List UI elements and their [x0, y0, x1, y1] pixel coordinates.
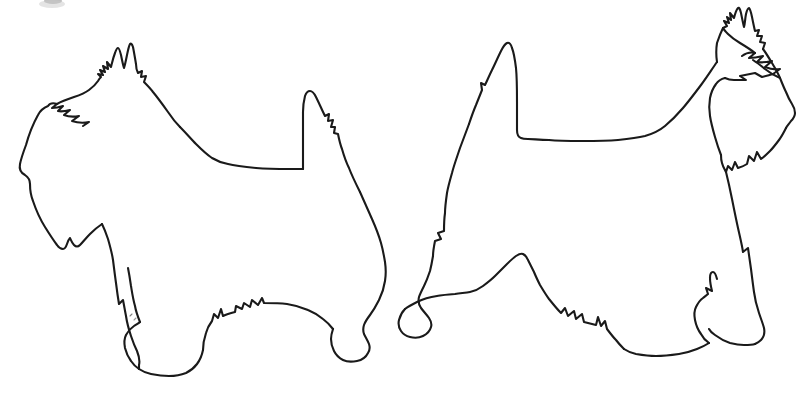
top-edge-smudge [39, 0, 65, 8]
image-canvas: Two Scottish Terriers line drawing [0, 0, 810, 403]
two-scottish-terriers-drawing [0, 0, 810, 403]
